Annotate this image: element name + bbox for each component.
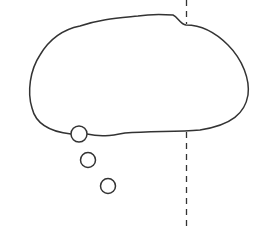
thought-bubble [30,14,249,135]
trail-circle-2 [81,153,96,168]
trail-circle-1 [71,126,87,142]
diagram-canvas [0,0,257,228]
trail-circle-3 [101,179,116,194]
